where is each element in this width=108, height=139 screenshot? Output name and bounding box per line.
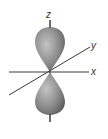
p-orbital-diagram: z y x: [0, 0, 108, 139]
lower-lobe: [35, 72, 65, 115]
upper-lobe: [35, 27, 65, 72]
y-axis-label: y: [90, 40, 97, 51]
x-axis-label: x: [90, 66, 97, 77]
z-axis-label: z: [45, 9, 51, 20]
